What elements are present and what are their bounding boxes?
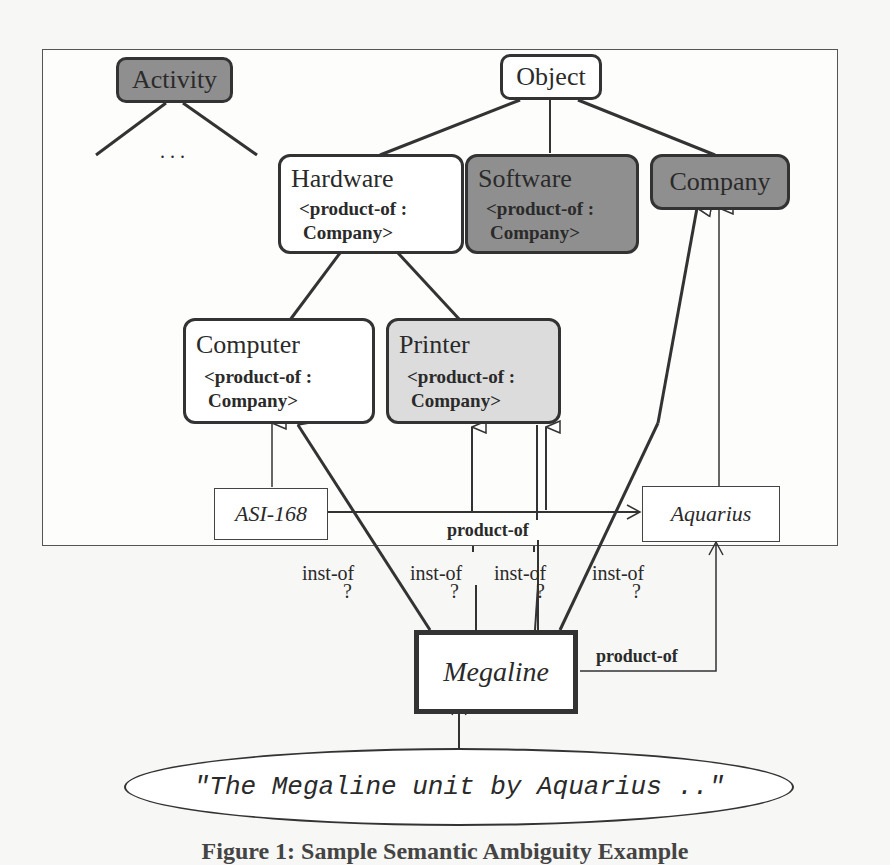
input-text-ellipse: "The Megaline unit by Aquarius ..": [124, 748, 794, 826]
figure-caption: Figure 1: Sample Semantic Ambiguity Exam…: [0, 838, 890, 865]
edge-label-question: ?: [632, 580, 641, 603]
node-activity-title: Activity: [119, 66, 230, 94]
edge-label-question: ?: [450, 580, 459, 603]
edge-label-question: ?: [343, 580, 352, 603]
node-printer-slot: <product-of : Company>: [407, 365, 515, 413]
node-computer: Computer <product-of : Company>: [183, 318, 375, 424]
instance-megaline: Megaline: [414, 630, 578, 714]
edge-label-product-of: product-of: [596, 646, 678, 667]
slot-line: <product-of :: [299, 198, 407, 219]
node-object: Object: [500, 54, 602, 100]
instance-aquarius: Aquarius: [642, 486, 780, 542]
slot-line: Company>: [299, 222, 393, 243]
slot-line: Company>: [204, 390, 298, 411]
node-hardware: Hardware <product-of : Company>: [278, 154, 464, 254]
slot-line: <product-of :: [204, 366, 312, 387]
slot-line: <product-of :: [486, 198, 594, 219]
instance-asi-168: ASI-168: [214, 488, 328, 540]
node-computer-slot: <product-of : Company>: [204, 365, 312, 413]
node-software: Software <product-of : Company>: [465, 154, 639, 254]
node-printer-title: Printer: [399, 331, 470, 359]
node-company-title: Company: [653, 168, 787, 196]
edge-label-product-of: product-of: [447, 520, 529, 541]
node-company: Company: [650, 154, 790, 210]
edge-label-question: ?: [536, 580, 545, 603]
node-hardware-title: Hardware: [291, 165, 394, 193]
ellipsis: . . .: [160, 140, 185, 163]
node-hardware-slot: <product-of : Company>: [299, 197, 407, 245]
node-activity: Activity: [116, 57, 233, 103]
node-computer-title: Computer: [196, 331, 300, 359]
slot-line: Company>: [486, 222, 580, 243]
slot-line: Company>: [407, 390, 501, 411]
node-object-title: Object: [503, 63, 599, 91]
slot-line: <product-of :: [407, 366, 515, 387]
node-software-title: Software: [478, 165, 572, 193]
node-printer: Printer <product-of : Company>: [386, 318, 561, 424]
node-software-slot: <product-of : Company>: [486, 197, 594, 245]
